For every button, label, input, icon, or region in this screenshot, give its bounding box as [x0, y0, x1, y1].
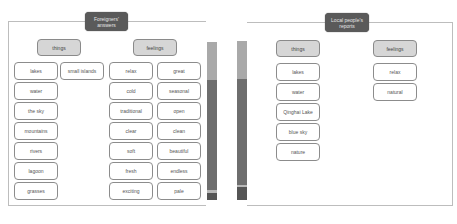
item-node: pale: [157, 182, 201, 200]
item-node: exciting: [109, 182, 153, 200]
item-node: water: [276, 83, 320, 101]
item-node: rivers: [14, 142, 58, 160]
item-label: endless: [170, 168, 187, 174]
item-label: great: [173, 68, 184, 74]
item-node: seasonal: [157, 82, 201, 100]
item-label: exciting: [123, 188, 140, 194]
item-node: open: [157, 102, 201, 120]
item-node: mountains: [14, 122, 58, 140]
item-node: clean: [157, 122, 201, 140]
item-node: traditional: [109, 102, 153, 120]
right-panel-bottom-border: [247, 205, 453, 206]
item-node: the sky: [14, 102, 58, 120]
item-label: seasonal: [169, 88, 189, 94]
item-label: grasses: [27, 188, 45, 194]
item-node: relax: [109, 62, 153, 80]
item-label: soft: [127, 148, 135, 154]
item-label: natural: [387, 89, 402, 95]
right-panel-right-border: [452, 22, 453, 205]
item-node: fresh: [109, 162, 153, 180]
item-label: relax: [390, 69, 401, 75]
item-label: traditional: [120, 108, 142, 114]
item-label: cold: [126, 88, 135, 94]
category-label: things: [291, 46, 304, 52]
item-label: Qinghai Lake: [283, 109, 312, 115]
item-node: grasses: [14, 182, 58, 200]
item-label: open: [173, 108, 184, 114]
item-node: clear: [109, 122, 153, 140]
item-node: beautiful: [157, 142, 201, 160]
item-label: beautiful: [170, 148, 189, 154]
item-node: blue sky: [276, 123, 320, 141]
item-label: small islands: [68, 68, 97, 74]
bar-segment: [237, 41, 247, 79]
item-label: pale: [174, 188, 183, 194]
category-label: feelings: [386, 46, 403, 52]
category-things: things: [37, 39, 81, 56]
item-label: water: [30, 88, 42, 94]
left-stacked-bar: [207, 42, 217, 200]
item-label: nature: [291, 149, 305, 155]
item-node: lakes: [276, 63, 320, 81]
item-label: the sky: [28, 108, 44, 114]
item-label: mountains: [24, 128, 47, 134]
category-feelings: feelings: [373, 40, 417, 57]
item-label: fresh: [125, 168, 136, 174]
right-stacked-bar: [237, 41, 247, 200]
bar-segment: [207, 80, 217, 190]
item-label: clean: [173, 128, 185, 134]
item-label: lagoon: [28, 168, 43, 174]
left-panel-left-border: [8, 21, 9, 205]
item-label: rivers: [30, 148, 42, 154]
item-node: lakes: [14, 62, 58, 80]
item-label: clear: [126, 128, 137, 134]
bar-segment: [237, 79, 247, 185]
bar-segment: [237, 187, 247, 200]
item-label: relax: [126, 68, 137, 74]
item-node: natural: [373, 83, 417, 101]
item-node: relax: [373, 63, 417, 81]
item-label: blue sky: [289, 129, 307, 135]
item-label: lakes: [292, 69, 304, 75]
item-node: cold: [109, 82, 153, 100]
title-line2: reports: [339, 23, 355, 29]
item-node: small islands: [60, 62, 104, 80]
item-label: lakes: [30, 68, 42, 74]
category-feelings: feelings: [133, 39, 177, 56]
item-label: water: [292, 89, 304, 95]
category-things: things: [276, 40, 320, 57]
category-label: feelings: [146, 45, 163, 51]
item-node: lagoon: [14, 162, 58, 180]
left-panel-bottom-border: [8, 205, 206, 206]
item-node: endless: [157, 162, 201, 180]
left-panel-title: Foreigners' answers: [85, 12, 128, 31]
item-node: soft: [109, 142, 153, 160]
category-label: things: [52, 45, 65, 51]
bar-segment: [207, 42, 217, 80]
item-node: nature: [276, 143, 320, 161]
bar-segment: [207, 193, 217, 200]
title-line2: answers: [97, 22, 116, 28]
item-node: great: [157, 62, 201, 80]
item-node: water: [14, 82, 58, 100]
right-panel-title: Local people's reports: [325, 13, 369, 32]
item-node: Qinghai Lake: [276, 103, 320, 121]
